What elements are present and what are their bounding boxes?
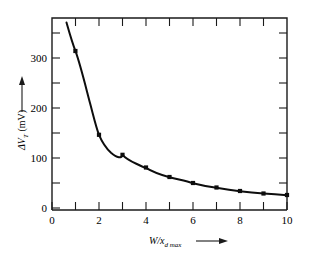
y-axis-title: ΔVT (mV) xyxy=(16,110,30,151)
x-tick-label-6: 6 xyxy=(190,214,196,226)
data-point xyxy=(120,153,124,157)
data-point xyxy=(97,133,101,137)
x-tick-label-2: 2 xyxy=(96,214,102,226)
y-axis-ticks xyxy=(52,33,60,208)
data-point xyxy=(167,175,171,179)
data-curve xyxy=(67,23,288,196)
y-tick-label-200: 200 xyxy=(31,102,48,114)
data-point xyxy=(73,49,77,53)
x-tick-labels: 0 2 4 6 8 10 xyxy=(49,214,293,226)
x-axis-title-main: W/x xyxy=(149,235,165,246)
y-tick-label-100: 100 xyxy=(31,152,48,164)
y-axis-title-group: ΔVT (mV) xyxy=(16,76,30,151)
y-tick-label-0: 0 xyxy=(42,202,48,214)
x-axis-title-subscript: d max xyxy=(165,241,183,249)
y-axis-ticks-right xyxy=(279,33,287,183)
plot-frame xyxy=(52,18,287,210)
data-point xyxy=(191,181,195,185)
data-markers xyxy=(73,49,289,197)
data-point xyxy=(144,165,148,169)
data-point xyxy=(214,185,218,189)
y-axis-arrow-head xyxy=(19,76,25,85)
x-tick-label-4: 4 xyxy=(143,214,149,226)
axis-box xyxy=(52,18,287,210)
chart-svg: 0 100 200 300 0 2 4 6 8 10 ΔVT (mV) W/xd… xyxy=(0,0,314,260)
data-point xyxy=(285,193,289,197)
x-axis-title-group: W/xd max xyxy=(149,235,228,249)
data-point xyxy=(261,191,265,195)
x-tick-label-8: 8 xyxy=(237,214,243,226)
x-axis-title: W/xd max xyxy=(149,235,182,249)
x-axis-ticks-top xyxy=(76,18,264,26)
x-axis-ticks xyxy=(52,202,287,210)
x-tick-label-0: 0 xyxy=(49,214,55,226)
x-tick-label-10: 10 xyxy=(282,214,294,226)
y-axis-title-units: (mV) xyxy=(16,110,28,134)
data-point xyxy=(238,189,242,193)
y-tick-labels: 0 100 200 300 xyxy=(31,52,48,214)
chart-figure: 0 100 200 300 0 2 4 6 8 10 ΔVT (mV) W/xd… xyxy=(0,0,314,260)
x-axis-arrow-head xyxy=(219,238,228,244)
y-tick-label-300: 300 xyxy=(31,52,48,64)
